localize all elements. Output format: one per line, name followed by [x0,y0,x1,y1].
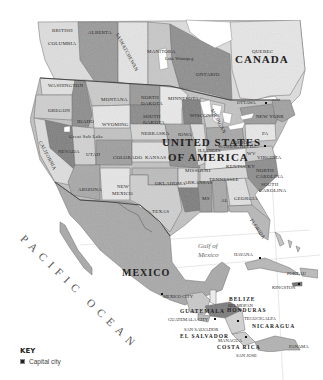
city-label-managua: MANAGUA [218,339,242,344]
montana [85,80,130,106]
capital-marker-havana [259,257,261,259]
colorado [96,140,132,165]
region-label-dakota: DAKOTA [143,120,165,125]
utah [72,126,96,165]
region-label-kentucky: KENTUCKY [226,164,255,169]
region-label-georgia: GEORGIA [234,196,258,201]
region-label-north: NORTH [141,95,159,100]
region-label-idaho: IDAHO [77,119,94,124]
region-label-manitoba: MANITOBA [147,49,175,54]
capital-marker-mexico-city [161,293,163,295]
country-label-costa-rica: COSTA RICA [217,345,261,351]
region-label-carolina: CAROLINA [256,174,283,179]
city-label-san-jose: SAN JOSE [236,354,257,359]
region-label-columbia: COLUMBIA [48,41,76,46]
region-label-washington: WASHINGTON [48,83,83,88]
city-label-ottawa: OTTAWA [237,101,256,106]
country-label-belize: BELIZE [229,297,255,303]
city-label-mexico-city: MEXICO CITY [163,295,193,300]
capital-marker-tegucigalpa [237,320,239,322]
city-label-belmopan: BELMOPAN [228,304,253,309]
belize [210,290,216,305]
saskatchewan [118,22,148,88]
city-label-kingston: KINGSTON [272,286,295,291]
region-label-kansas: KANSAS [145,155,166,160]
key-title: KEY [20,347,61,355]
region-label-missouri: MISSOURI [185,168,211,173]
water-label-mexico: Mexico [198,252,219,259]
city-label-washington-d-c: WASHINGTON D.C. [218,145,258,150]
capital-marker-washington [264,145,266,147]
city-label-port-au: PORT AU [287,272,306,277]
region-label-wv: WV [247,151,256,156]
key-item-capital: Capital city [20,358,61,365]
region-label-tennessee: TENNESSEE [209,177,239,182]
region-label-new-york: NEW YORK [256,114,284,119]
country-label-guatemala: GUATEMALA [180,309,225,315]
city-label-panama: PANAMA [289,345,309,350]
region-label-minnesota: MINNESOTA [168,96,199,101]
region-label-utah: UTAH [86,152,100,157]
capital-marker-guatemala-city [214,318,216,320]
region-label-north: NORTH [256,168,274,173]
region-label-colorado: COLORADO [113,155,142,160]
region-label-iowa: IOWA [178,132,192,137]
region-label-oregon: OREGON [48,108,70,113]
bahamas [275,232,300,252]
wisconsin [182,100,202,124]
city-label-san-salvador: SAN SALVADOR [184,328,218,333]
region-label-south: SOUTH [261,182,279,187]
key-item-label: Capital city [29,358,61,365]
capital-marker-managua [245,336,247,338]
region-label-mexico: MEXICO [112,191,133,196]
water-label-gulf-of: Gulf of [198,243,218,250]
region-label-oklahoma: OKLAHOMA [155,181,186,186]
region-label-carolina: CAROLINA [259,188,286,193]
region-label-nebraska: NEBRASKA [141,131,170,136]
country-label-mexico: MEXICO [122,268,170,278]
region-label-dakota: DAKOTA [141,101,163,106]
region-label-alberta: ALBERTA [88,30,112,35]
country-label-honduras: HONDURAS [227,308,266,314]
region-label-pa: PA [262,131,268,136]
city-label-havana: HAVANA [234,253,253,258]
region-label-al: AL [221,198,228,203]
region-label-arkansas: ARKANSAS [184,180,213,185]
region-label-texas: TEXAS [152,209,169,214]
map-key: KEY Capital city [20,347,61,365]
region-label-nevada: NEVADA [58,149,80,154]
capital-marker-ottawa [265,102,267,104]
capital-dot-icon [20,359,25,364]
region-label-quebec: QUEBEC [252,49,273,54]
region-label-ms: MS [202,196,210,201]
city-label-tegucigalpa: TEGUCIGALPA [244,317,276,322]
region-label-great-salt-lake: Great Salt Lake [69,134,103,139]
country-label-of-america: OF AMERICA [168,152,249,163]
region-label-south: SOUTH [143,114,161,119]
region-label-wyoming: WYOMING [102,122,129,127]
region-label-british: BRITISH [52,28,73,33]
region-label-new: NEW [117,184,129,189]
city-label-lake-winnipeg: Lake Winnipeg [165,57,193,62]
country-label-canada: CANADA [235,54,289,65]
region-label-arizona: ARIZONA [78,187,102,192]
region-label-virginia: VIRGINIA [257,155,281,160]
region-label-montana: MONTANA [101,97,128,102]
country-label-nicaragua: NICARAGUA [252,324,295,330]
city-label-guatemala-city: GUATEMALA CITY [168,318,208,323]
capital-marker-kingston [298,283,300,285]
alabama [212,180,228,212]
region-label-ontario: ONTARIO [196,72,220,77]
